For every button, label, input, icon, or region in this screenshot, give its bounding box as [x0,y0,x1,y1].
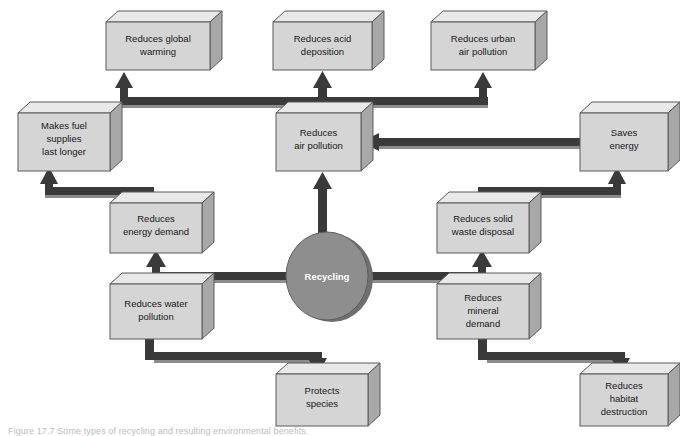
box-label-line: energy [609,140,638,151]
box-reduces-mineral-demand[interactable]: Reduces mineral demand [437,273,541,339]
box-label-line: Makes fuel [41,120,87,131]
recycling-hub-label: Recycling [305,271,350,282]
box-reduces-air-pollution[interactable]: Reduces air pollution [276,102,373,171]
box-label-line: Reduces solid [453,213,513,224]
box-label-line: species [306,398,338,409]
recycling-hub[interactable]: Recycling [286,232,373,322]
box-label-line: Protects [305,385,340,396]
box-label-line: pollution [138,311,173,322]
box-label-line: air pollution [294,140,343,151]
box-reduces-acid-deposition[interactable]: Reduces acid deposition [273,11,384,70]
box-label-line: Reduces urban [451,33,515,44]
box-label-line: Reduces [300,127,338,138]
box-reduces-urban-air-pollution[interactable]: Reduces urban air pollution [431,11,547,70]
box-protects-species[interactable]: Protects species [276,363,380,426]
box-label-line: mineral [467,305,498,316]
box-label-line: waste disposal [451,226,514,237]
box-label-line: warming [139,46,176,57]
box-reduces-energy-demand[interactable]: Reduces energy demand [110,192,214,253]
box-saves-energy[interactable]: Saves energy [580,102,680,171]
box-label-line: air pollution [459,46,508,57]
connector-air-pollution-to-urban-air-pollution [474,72,492,100]
box-makes-fuel-supplies-last-longer[interactable]: Makes fuel supplies last longer [18,102,122,171]
box-label-line: habitat [610,393,639,404]
box-label-line: Saves [611,127,638,138]
box-label-line: Reduces [605,380,643,391]
box-label-line: Reduces global [125,33,191,44]
box-label-line: energy demand [123,226,189,237]
box-label-line: demand [466,318,500,329]
box-label-line: Reduces [137,213,175,224]
box-label-line: supplies [47,133,82,144]
figure-caption: Figure 17.7 Some types of recycling and … [8,426,672,436]
box-label-line: last longer [42,146,86,157]
box-reduces-solid-waste-disposal[interactable]: Reduces solid waste disposal [437,192,541,253]
connector-recycling-to-air-pollution [313,172,332,241]
box-reduces-habitat-destruction[interactable]: Reduces habitat destruction [580,363,680,426]
box-label-line: deposition [301,46,344,57]
box-label-line: Reduces acid [294,33,352,44]
box-label-line: Reduces water [124,298,187,309]
box-label-line: Reduces [464,292,502,303]
box-reduces-global-warming[interactable]: Reduces global warming [106,11,222,70]
box-reduces-water-pollution[interactable]: Reduces water pollution [110,273,214,339]
connector-saves-energy-to-air-pollution [361,133,581,151]
box-label-line: destruction [601,406,647,417]
